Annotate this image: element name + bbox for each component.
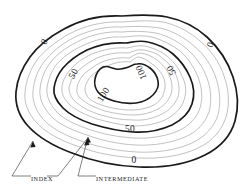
callout-intermediate-label: INTERMEDIATE bbox=[96, 175, 148, 182]
contour-map-figure: 0 0 0 50 50 50 100 100 INDEX INTERMEDIAT bbox=[0, 0, 249, 187]
contour-label-fifty-bottom: 50 bbox=[125, 124, 135, 134]
callout-index-label: INDEX bbox=[31, 175, 53, 182]
figure-background bbox=[0, 0, 249, 187]
contour-label-zero-bottom: 0 bbox=[132, 155, 137, 165]
